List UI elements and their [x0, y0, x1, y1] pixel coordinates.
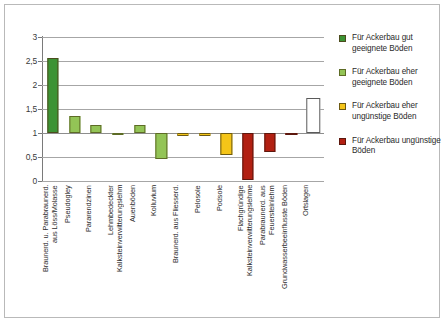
- bar: [47, 58, 58, 133]
- bar-slot: [129, 37, 151, 181]
- x-axis-label: Kolluvium: [150, 185, 172, 305]
- bar: [199, 133, 210, 136]
- legend-item[interactable]: Für Ackerbau gut geeignete Böden: [339, 33, 441, 54]
- x-axis-label: Braunerd. aus Fliesserd.: [172, 185, 194, 305]
- y-axis-ticks: 32,521,510,50: [5, 5, 42, 181]
- legend-swatch-icon: [339, 69, 346, 76]
- bar-slot: [194, 37, 216, 181]
- legend-swatch-icon: [339, 138, 346, 145]
- legend-item[interactable]: Für Ackerbau ungünstige Böden: [339, 136, 441, 157]
- legend-item-label: Für Ackerbau gut geeignete Böden: [352, 33, 441, 54]
- x-axis-labels: Braunerd. u. Parabraunerd. aus Löss/Mola…: [42, 185, 324, 310]
- y-axis-tick-label: 1: [32, 128, 37, 138]
- bar-slot: [107, 37, 129, 181]
- gridline: [42, 181, 324, 182]
- legend-item-label: Für Ackerbau eher geeignete Böden: [352, 67, 441, 88]
- bar-slot: [42, 37, 64, 181]
- x-axis-label: Podsole: [216, 185, 238, 305]
- bar-slot: [259, 37, 281, 181]
- x-axis-label: Pelosole: [194, 185, 216, 305]
- x-axis-label: Grundwasserbeeinflusste Böden: [281, 185, 303, 305]
- y-axis-tick-label: 3: [32, 32, 37, 42]
- bar-slot: [237, 37, 259, 181]
- x-axis-label: Pseudogley: [64, 185, 86, 305]
- bar-series: [42, 37, 324, 181]
- legend-item[interactable]: Für Ackerbau eher geeignete Böden: [339, 67, 441, 88]
- legend-item-label: Für Ackerbau ungünstige Böden: [352, 136, 441, 157]
- bar-slot: [150, 37, 172, 181]
- x-axis-label: Auenböden: [129, 185, 151, 305]
- bar-slot: [216, 37, 238, 181]
- bar: [91, 125, 102, 133]
- y-axis-tick-label: 2: [32, 80, 37, 90]
- bar-slot: [281, 37, 303, 181]
- bar-slot: [302, 37, 324, 181]
- x-axis-label: Flachgründige Kalksteinverwitterungslehm…: [237, 185, 259, 305]
- x-axis-label: Parabraunerd. aus Feuersteinlehm: [259, 185, 281, 305]
- chart-frame: 32,521,510,50 Braunerd. u. Parabraunerd.…: [4, 4, 440, 318]
- y-axis-tick-label: 1,5: [26, 104, 37, 114]
- bar: [306, 98, 319, 133]
- y-axis-tick-label: 2,5: [26, 56, 37, 66]
- x-axis-label: Braunerd. u. Parabraunerd. aus Löss/Mola…: [42, 185, 64, 305]
- y-axis-tick-label: 0,5: [26, 152, 37, 162]
- bar: [112, 133, 123, 135]
- chart-legend: Für Ackerbau gut geeignete BödenFür Acke…: [339, 33, 441, 170]
- bar: [242, 133, 253, 180]
- legend-swatch-icon: [339, 103, 346, 110]
- bar: [264, 133, 275, 152]
- bar-slot: [172, 37, 194, 181]
- bar: [177, 133, 188, 136]
- bar: [221, 133, 232, 155]
- y-axis-tick-label: 0: [32, 176, 37, 186]
- bar: [69, 116, 80, 133]
- legend-item-label: Für Ackerbau eher ungünstige Böden: [352, 101, 441, 122]
- x-axis-label: Lehmbedeckter Kalksteinverwitterungslehm: [107, 185, 129, 305]
- legend-item[interactable]: Für Ackerbau eher ungünstige Böden: [339, 101, 441, 122]
- bar: [134, 125, 145, 133]
- legend-swatch-icon: [339, 35, 346, 42]
- bar: [156, 133, 167, 159]
- x-axis-label: Ortslagen: [302, 185, 324, 305]
- x-axis-label: Pararendzinen: [85, 185, 107, 305]
- bar-slot: [85, 37, 107, 181]
- bar: [286, 133, 297, 135]
- bar-slot: [64, 37, 86, 181]
